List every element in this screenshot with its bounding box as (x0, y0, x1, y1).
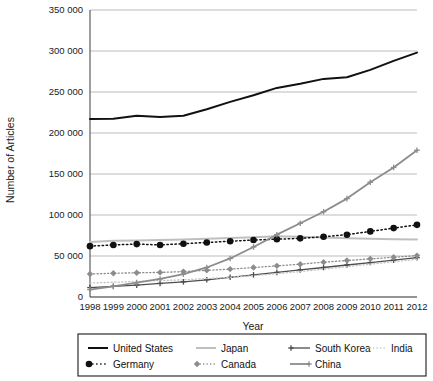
x-tick-label: 2006 (266, 301, 287, 312)
series-marker (157, 269, 163, 275)
series-marker (87, 243, 94, 250)
series-marker (180, 240, 187, 247)
legend-border (78, 334, 426, 376)
y-tick-label: 50 000 (54, 250, 83, 261)
series-marker (227, 238, 234, 245)
x-tick-label: 2008 (313, 301, 334, 312)
data-series (87, 53, 421, 293)
x-tick-label: 1999 (103, 301, 124, 312)
axis-lines (90, 10, 417, 297)
series-marker (250, 237, 257, 244)
y-tick-label: 250 000 (49, 86, 83, 97)
series-marker (250, 264, 256, 270)
series-line (90, 53, 417, 119)
y-tick-label: 100 000 (49, 209, 83, 220)
series-marker (203, 239, 210, 246)
x-tick-label: 2009 (336, 301, 357, 312)
series-marker (110, 270, 116, 276)
x-tick-label: 2000 (126, 301, 147, 312)
x-tick-label: 2002 (173, 301, 194, 312)
legend-marker-germany (86, 361, 93, 368)
legend-label-india: India (391, 343, 413, 354)
x-tick-label: 2005 (243, 301, 264, 312)
x-tick-label: 2010 (360, 301, 381, 312)
series-marker (414, 222, 421, 229)
y-axis-tick-labels: 050 000100 000150 000200 000250 000300 0… (49, 4, 83, 302)
y-tick-label: 300 000 (49, 45, 83, 56)
series-marker (227, 266, 233, 272)
x-axis-title: Year (242, 320, 264, 332)
x-tick-label: 1998 (79, 301, 100, 312)
series-marker (297, 235, 304, 242)
legend-label-canada: Canada (221, 359, 256, 370)
gridlines (90, 10, 417, 297)
series-marker (157, 242, 164, 249)
legend-label-germany: Germany (113, 359, 154, 370)
x-tick-label: 2001 (150, 301, 171, 312)
y-tick-label: 200 000 (49, 127, 83, 138)
legend-label-united-states: United States (113, 343, 173, 354)
series-marker (87, 271, 93, 277)
series-marker (110, 242, 117, 249)
series-marker (344, 257, 350, 263)
series-marker (274, 263, 280, 269)
x-tick-label: 2012 (406, 301, 427, 312)
series-marker (133, 241, 140, 248)
y-axis-title: Number of Articles (4, 117, 16, 203)
y-tick-label: 350 000 (49, 4, 83, 15)
x-tick-label: 2004 (220, 301, 241, 312)
x-axis-tick-labels: 1998199920002001200220032004200520062007… (79, 301, 427, 312)
series-marker (390, 225, 397, 232)
x-tick-label: 2003 (196, 301, 217, 312)
series-marker (134, 270, 140, 276)
legend-label-china: China (315, 359, 342, 370)
series-marker (320, 233, 327, 240)
x-tick-label: 2011 (383, 301, 403, 312)
series-marker (344, 231, 351, 238)
series-marker (367, 256, 373, 262)
chart-container: 050 000100 000150 000200 000250 000300 0… (0, 0, 433, 381)
series-marker (320, 259, 326, 265)
legend-label-japan: Japan (221, 343, 248, 354)
x-tick-label: 2007 (290, 301, 311, 312)
series-marker (367, 228, 374, 235)
line-chart: 050 000100 000150 000200 000250 000300 0… (0, 0, 433, 381)
legend-label-south-korea: South Korea (315, 343, 371, 354)
series-united-states (90, 53, 417, 119)
y-tick-label: 150 000 (49, 168, 83, 179)
series-marker (297, 261, 303, 267)
chart-legend: United StatesJapanSouth KoreaIndiaGerman… (78, 334, 426, 376)
